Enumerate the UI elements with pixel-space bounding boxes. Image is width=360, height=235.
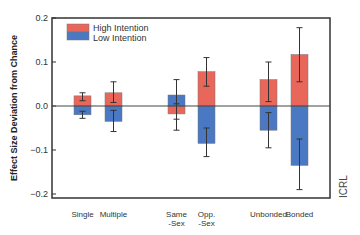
category-label-line2: -Sex xyxy=(168,219,184,228)
legend-swatch-high xyxy=(67,24,89,32)
legend-label-high: High Intention xyxy=(93,23,149,33)
effect-size-chart: 0.20.10.0−0.1−0.2Effect Size Deviation f… xyxy=(0,0,360,235)
category-label: Unbonded xyxy=(250,210,287,219)
category-label: Opp. xyxy=(198,210,215,219)
y-tick-label: 0.0 xyxy=(35,101,48,111)
y-tick-label: 0.2 xyxy=(35,13,48,23)
icrl-watermark: ICRL xyxy=(338,175,349,198)
category-label-line2: -Sex xyxy=(198,219,214,228)
plot-frame xyxy=(52,18,330,198)
y-tick-label: −0.2 xyxy=(30,189,48,199)
category-label: Single xyxy=(71,210,94,219)
category-label: Same xyxy=(166,210,187,219)
y-axis-label: Effect Size Deviation from Chance xyxy=(9,35,19,181)
category-label: Multiple xyxy=(100,210,128,219)
legend-label-low: Low Intention xyxy=(93,33,147,43)
legend-swatch-low xyxy=(67,32,89,40)
y-tick-label: −0.1 xyxy=(30,145,48,155)
y-tick-label: 0.1 xyxy=(35,57,48,67)
category-label: Bonded xyxy=(286,210,314,219)
